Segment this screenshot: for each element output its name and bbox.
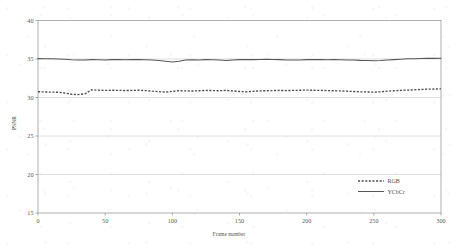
x-tick-label-300: 300 — [436, 217, 445, 224]
legend-label-ycbcr: YCbCr — [388, 189, 405, 195]
x-tick-label-150: 150 — [235, 217, 244, 224]
y-tick-label-20: 20 — [27, 171, 33, 178]
x-axis-ticks — [38, 213, 441, 216]
legend-label-rgb: RGB — [388, 178, 400, 184]
y-tick-label-35: 35 — [27, 55, 33, 62]
y-axis-title: PSNR — [11, 116, 17, 130]
y-tick-label-30: 30 — [27, 94, 33, 101]
psnr-line-chart: 152025303540 050100150200250300 PSNR Fra… — [0, 0, 456, 250]
x-axis-title: Frame number — [213, 231, 246, 237]
x-tick-label-100: 100 — [168, 217, 177, 224]
y-axis-ticks — [36, 21, 39, 214]
x-tick-label-50: 50 — [102, 217, 108, 224]
y-tick-label-15: 15 — [27, 209, 33, 216]
y-axis-tick-labels: 152025303540 — [27, 17, 33, 217]
x-tick-label-250: 250 — [369, 217, 378, 224]
plot-background — [38, 21, 441, 214]
x-axis-tick-labels: 050100150200250300 — [36, 217, 445, 224]
y-tick-label-40: 40 — [27, 17, 33, 24]
chart-figure: 152025303540 050100150200250300 PSNR Fra… — [0, 0, 456, 250]
x-tick-label-200: 200 — [302, 217, 311, 224]
y-tick-label-25: 25 — [27, 132, 33, 139]
x-tick-label-0: 0 — [36, 217, 39, 224]
